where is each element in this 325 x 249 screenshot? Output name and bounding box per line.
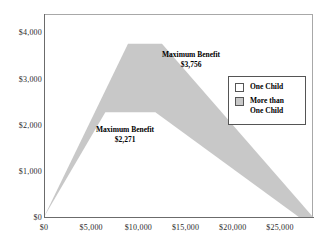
annotation-lower-title: Maximum Benefit: [96, 125, 154, 135]
legend-swatch-one-child: [235, 83, 244, 92]
y-axis-tick-label: $4,000: [0, 28, 42, 37]
x-axis-line: [44, 217, 314, 218]
y-axis-tick-labels: $0$1,000$2,000$3,000$4,000: [0, 0, 42, 249]
x-axis-tick-label: $20,000: [219, 223, 246, 232]
x-axis-tick-label: $10,000: [125, 223, 152, 232]
legend-label-one-child: One Child: [250, 82, 283, 92]
x-axis-tick-label: $25,000: [266, 223, 293, 232]
chart-legend: One Child More than One Child: [228, 76, 306, 125]
x-axis-tick-label: $5,000: [80, 223, 103, 232]
y-axis-tick-label: $3,000: [0, 74, 42, 83]
x-axis-tick-label: $15,000: [172, 223, 199, 232]
y-axis-tick-label: $2,000: [0, 120, 42, 129]
y-axis-tick-label: $0: [0, 213, 42, 222]
annotation-lower-value: $2,271: [96, 135, 154, 145]
legend-item-more-than-one-child: More than One Child: [235, 96, 305, 116]
legend-swatch-more-than-one-child: [235, 97, 244, 106]
annotation-max-benefit-more-than-one-child: Maximum Benefit $3,756: [162, 50, 220, 70]
y-axis-tick-label: $1,000: [0, 166, 42, 175]
annotation-max-benefit-one-child: Maximum Benefit $2,271: [96, 125, 154, 145]
x-axis-tick-label: $0: [40, 223, 48, 232]
y-axis-line: [44, 14, 45, 218]
annotation-upper-value: $3,756: [162, 60, 220, 70]
annotation-upper-title: Maximum Benefit: [162, 50, 220, 60]
legend-item-one-child: One Child: [235, 82, 305, 92]
legend-label-more-than-one-child: More than One Child: [250, 96, 284, 116]
benefit-area-chart: $0$1,000$2,000$3,000$4,000 $0$5,000$10,0…: [0, 0, 325, 249]
